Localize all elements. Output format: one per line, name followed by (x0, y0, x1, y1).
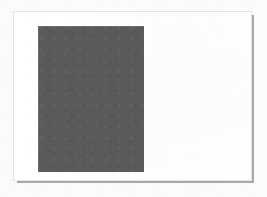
dark-rectangle-edge (38, 26, 144, 172)
figure-canvas (0, 0, 267, 197)
dark-rectangle (38, 26, 144, 172)
white-page (13, 11, 252, 181)
